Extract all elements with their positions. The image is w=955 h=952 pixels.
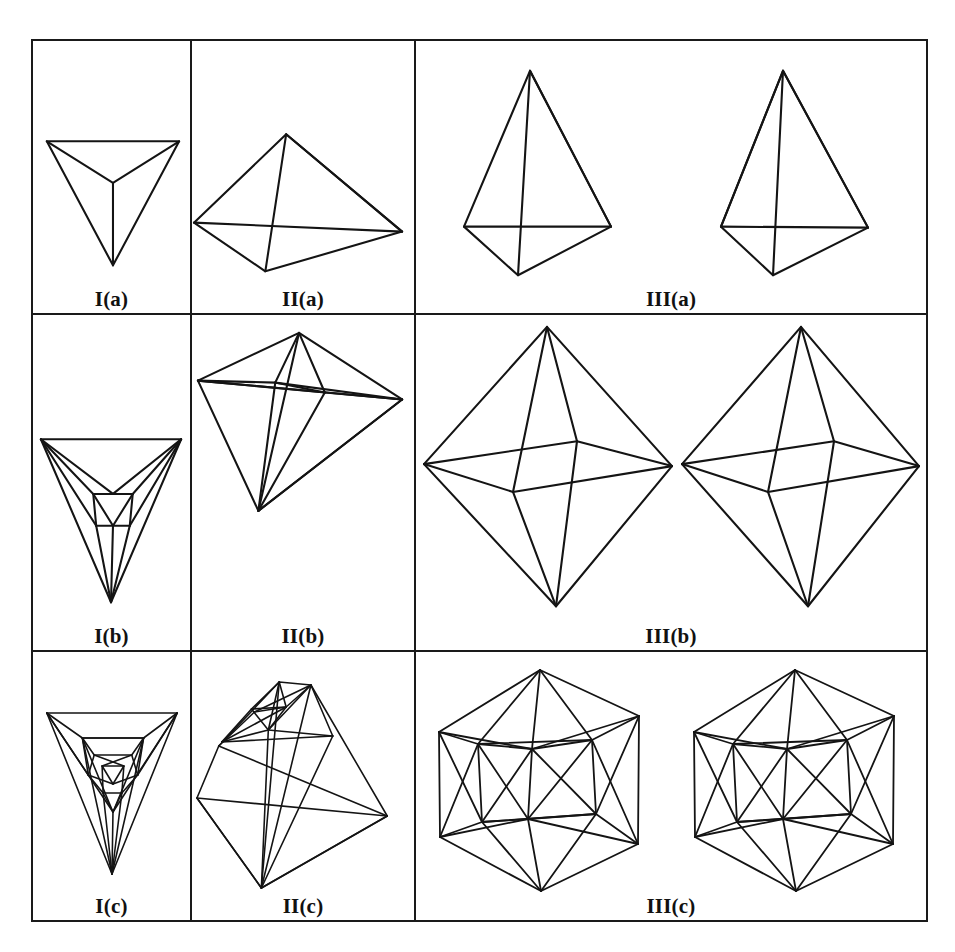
panel-label-II-a: II(a) <box>192 289 414 310</box>
panel-label-III-a: III(a) <box>416 289 926 310</box>
panel-III-a: III(a) <box>416 41 926 315</box>
drawing-III-a <box>416 41 926 313</box>
drawing-III-c <box>416 652 926 920</box>
panel-label-III-c: III(c) <box>416 896 926 917</box>
drawing-II-b <box>192 315 414 650</box>
panel-III-c: III(c) <box>416 652 926 920</box>
panel-II-b: II(b) <box>192 315 416 652</box>
drawing-I-c <box>33 652 190 920</box>
panel-label-I-c: I(c) <box>33 896 190 917</box>
panel-II-a: II(a) <box>192 41 416 315</box>
panel-label-I-b: I(b) <box>33 626 190 647</box>
panel-label-II-b: II(b) <box>192 626 414 647</box>
drawing-I-b <box>33 315 190 650</box>
panel-III-b: III(b) <box>416 315 926 652</box>
panel-label-III-b: III(b) <box>416 626 926 647</box>
drawing-I-a <box>33 41 190 313</box>
panel-I-c: I(c) <box>33 652 192 920</box>
drawing-II-a <box>192 41 414 313</box>
panel-II-c: II(c) <box>192 652 416 920</box>
drawing-III-b <box>416 315 926 650</box>
panel-label-I-a: I(a) <box>33 289 190 310</box>
drawing-II-c <box>192 652 414 920</box>
panel-I-a: I(a) <box>33 41 192 315</box>
polyhedra-figure-grid: I(a) II(a) <box>31 39 928 922</box>
panel-I-b: I(b) <box>33 315 192 652</box>
panel-label-II-c: II(c) <box>192 896 414 917</box>
